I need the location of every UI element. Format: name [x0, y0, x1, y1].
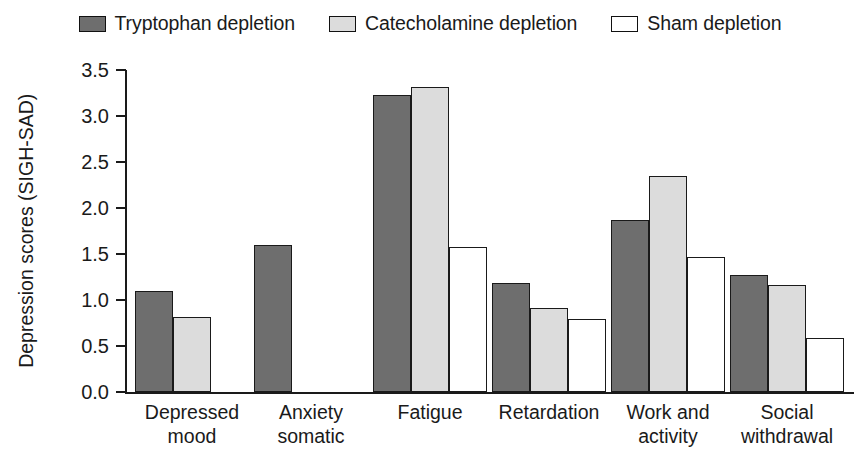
- bar[interactable]: [492, 283, 530, 392]
- x-axis-category-label-line1: Fatigue: [397, 401, 462, 423]
- plot-area: 0.00.51.01.52.02.53.03.5: [127, 70, 854, 392]
- x-axis-category-label: Socialwithdrawal: [717, 400, 857, 449]
- bar-group: [373, 70, 487, 392]
- bar-series-container: [127, 70, 854, 392]
- bar-group: [135, 70, 249, 392]
- y-axis-tick-label: 0.0: [81, 382, 109, 402]
- bar-group: [730, 70, 844, 392]
- y-axis-tick-label: 2.5: [81, 152, 109, 172]
- legend-entry[interactable]: Sham depletion: [611, 14, 781, 34]
- dark-gray-swatch: [79, 16, 106, 32]
- y-axis-tick: 2.5: [116, 161, 126, 163]
- y-axis-tick: 0.0: [116, 391, 126, 393]
- bar[interactable]: [530, 308, 568, 392]
- chart-legend: Tryptophan depletionCatecholamine deplet…: [0, 14, 860, 34]
- y-axis-tick-label: 1.5: [81, 244, 109, 264]
- y-axis-title: Depression scores (SIGH-SAD): [14, 70, 40, 392]
- legend-label: Catecholamine depletion: [365, 14, 577, 34]
- bar[interactable]: [411, 87, 449, 392]
- x-axis-category-label-line1: Social: [760, 401, 813, 423]
- legend-entry[interactable]: Tryptophan depletion: [79, 14, 296, 34]
- bar[interactable]: [649, 176, 687, 392]
- y-axis-tick: 3.5: [116, 69, 126, 71]
- x-axis-line: [125, 392, 854, 394]
- x-axis-category-label-line1: Work and: [626, 401, 709, 423]
- bar[interactable]: [768, 285, 806, 392]
- bar-chart-figure: Tryptophan depletionCatecholamine deplet…: [0, 0, 860, 473]
- legend-label: Tryptophan depletion: [115, 14, 296, 34]
- x-axis-category-label-line2: somatic: [241, 424, 381, 448]
- bar[interactable]: [687, 257, 725, 392]
- legend-label: Sham depletion: [647, 14, 781, 34]
- bar[interactable]: [254, 245, 292, 392]
- y-axis-tick-label: 1.0: [81, 290, 109, 310]
- bar[interactable]: [568, 319, 606, 392]
- y-axis-tick-label: 2.0: [81, 198, 109, 218]
- x-axis-category-label-line1: Retardation: [499, 401, 600, 423]
- bar[interactable]: [730, 275, 768, 392]
- y-axis-tick-label: 0.5: [81, 336, 109, 356]
- bar[interactable]: [449, 247, 487, 392]
- light-gray-swatch: [329, 16, 356, 32]
- y-axis-tick: 2.0: [116, 207, 126, 209]
- x-axis-category-label-line1: Anxiety: [279, 401, 343, 423]
- y-axis-tick-label: 3.0: [81, 106, 109, 126]
- bar[interactable]: [173, 317, 211, 392]
- y-axis-title-text: Depression scores (SIGH-SAD): [17, 94, 37, 368]
- bar[interactable]: [611, 220, 649, 392]
- bar[interactable]: [373, 95, 411, 392]
- bar-group: [492, 70, 606, 392]
- bar[interactable]: [135, 291, 173, 392]
- bar-group: [611, 70, 725, 392]
- y-axis-tick: 1.5: [116, 253, 126, 255]
- x-axis-tick-labels: DepressedmoodAnxietysomaticFatigueRetard…: [127, 400, 854, 470]
- y-axis-tick-label: 3.5: [81, 60, 109, 80]
- white-swatch: [611, 16, 638, 32]
- bar-group: [254, 70, 368, 392]
- x-axis-category-label-line2: withdrawal: [717, 424, 857, 448]
- x-axis-category-label-line1: Depressed: [145, 401, 239, 423]
- y-axis-tick: 0.5: [116, 345, 126, 347]
- y-axis-tick: 1.0: [116, 299, 126, 301]
- legend-entry[interactable]: Catecholamine depletion: [329, 14, 577, 34]
- y-axis-tick: 3.0: [116, 115, 126, 117]
- bar[interactable]: [806, 338, 844, 392]
